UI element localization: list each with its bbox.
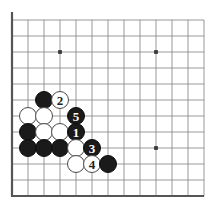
go-board-grid: [0, 0, 223, 215]
stone-white-move-2[interactable]: [51, 91, 69, 109]
go-diagram: 25134: [0, 0, 223, 215]
star-point: [154, 146, 158, 150]
stone-black[interactable]: [99, 155, 117, 173]
star-point: [154, 50, 158, 54]
star-point: [58, 50, 62, 54]
